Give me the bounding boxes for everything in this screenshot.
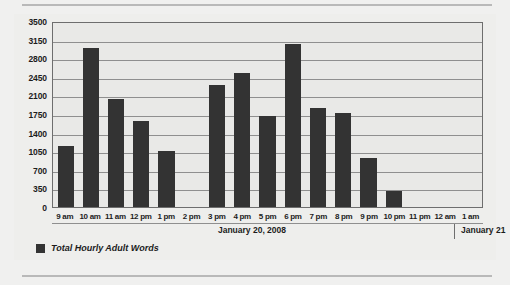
x-axis-tick-label: 6 pm — [280, 210, 305, 223]
bar-slot — [230, 23, 255, 207]
date-label-primary: January 20, 2008 — [52, 225, 452, 235]
bar-slot — [356, 23, 381, 207]
bar — [209, 85, 225, 207]
bar-slot — [53, 23, 78, 207]
x-axis-tick-label: 5 pm — [255, 210, 280, 223]
bar-slot — [129, 23, 154, 207]
x-axis-tick-label: 12 am — [432, 210, 457, 223]
bar-slot — [432, 23, 457, 207]
y-axis-tick-label: 1400 — [28, 129, 47, 139]
bar-slot — [406, 23, 431, 207]
legend-swatch-icon — [36, 244, 45, 253]
x-axis-tick-label: 10 pm — [382, 210, 407, 223]
x-axis-tick-label: 11 pm — [407, 210, 432, 223]
bar — [285, 44, 301, 207]
plot-area — [52, 22, 483, 208]
y-axis-tick-label: 0 — [42, 203, 47, 213]
bar-series — [53, 23, 482, 207]
bar — [133, 121, 149, 207]
bar-slot — [103, 23, 128, 207]
x-axis-tick-label: 8 pm — [331, 210, 356, 223]
bar-slot — [457, 23, 482, 207]
y-axis-tick-label: 700 — [33, 166, 47, 176]
y-axis-tick-label: 3500 — [28, 17, 47, 27]
bar-slot — [331, 23, 356, 207]
bar-slot — [78, 23, 103, 207]
x-axis-tick-label: 9 pm — [356, 210, 381, 223]
legend-label: Total Hourly Adult Words — [51, 243, 159, 253]
y-axis-tick-label: 1050 — [28, 147, 47, 157]
x-axis-tick-label: 1 am — [458, 210, 483, 223]
y-axis-tick-label: 3150 — [28, 36, 47, 46]
bar — [259, 116, 275, 207]
y-axis-tick-label: 2100 — [28, 91, 47, 101]
bottom-divider-rule — [22, 275, 492, 277]
x-axis-tick-label: 3 pm — [204, 210, 229, 223]
bar-slot — [255, 23, 280, 207]
x-axis: 9 am10 am11 am12 pm1 pm2 pm3 pm4 pm5 pm6… — [52, 210, 483, 223]
x-axis-tick-label: 11 am — [103, 210, 128, 223]
y-axis: 035070010501400175021002450280031503500 — [14, 22, 50, 208]
bar-slot — [381, 23, 406, 207]
x-axis-tick-label: 9 am — [52, 210, 77, 223]
bar — [58, 146, 74, 207]
x-axis-tick-label: 1 pm — [153, 210, 178, 223]
top-divider-rule — [22, 4, 492, 6]
bar-slot — [280, 23, 305, 207]
y-axis-tick-label: 2450 — [28, 73, 47, 83]
x-axis-tick-label: 2 pm — [179, 210, 204, 223]
bar — [335, 113, 351, 207]
date-band: January 20, 2008 January 21 — [52, 224, 483, 239]
bar — [234, 73, 250, 207]
y-axis-tick-label: 1750 — [28, 110, 47, 120]
x-axis-tick-label: 10 am — [77, 210, 102, 223]
bar — [83, 48, 99, 207]
x-axis-tick-label: 7 pm — [306, 210, 331, 223]
bar — [386, 191, 402, 207]
date-label-secondary: January 21 — [456, 225, 505, 235]
bar-slot — [204, 23, 229, 207]
bar — [108, 99, 124, 207]
chart-legend: Total Hourly Adult Words — [36, 243, 159, 253]
chart-page: 035070010501400175021002450280031503500 … — [0, 0, 510, 285]
date-divider — [454, 224, 455, 239]
bar-slot — [179, 23, 204, 207]
bar-chart-figure: 035070010501400175021002450280031503500 … — [14, 14, 496, 260]
y-axis-tick-label: 2800 — [28, 54, 47, 64]
bar — [310, 108, 326, 207]
bar — [158, 151, 174, 207]
x-axis-tick-label: 12 pm — [128, 210, 153, 223]
bar-slot — [154, 23, 179, 207]
bar-slot — [305, 23, 330, 207]
bar — [360, 158, 376, 207]
x-axis-tick-label: 4 pm — [230, 210, 255, 223]
y-axis-tick-label: 350 — [33, 184, 47, 194]
